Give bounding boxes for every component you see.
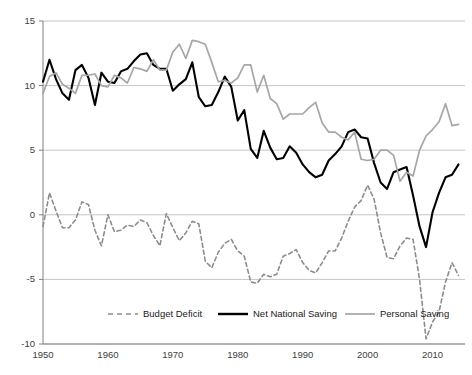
chart-container: 151050-5-10 1950196019701980199020002010… [0, 0, 472, 375]
data-series-group [43, 40, 459, 338]
legend-label-personal-saving: Personal Saving [380, 308, 449, 319]
x-tick-label: 2010 [413, 349, 453, 360]
y-tick-label: 15 [13, 15, 35, 26]
x-tick-label: 2000 [348, 349, 388, 360]
x-tick-label: 1980 [218, 349, 258, 360]
y-tick-label: 5 [13, 144, 35, 155]
x-tick-label: 1960 [88, 349, 128, 360]
gridlines [43, 21, 465, 344]
legend-label-budget-deficit: Budget Deficit [143, 308, 202, 319]
legend-label-net-national-saving: Net National Saving [253, 308, 337, 319]
y-tick-label: 10 [13, 80, 35, 91]
series-line-personal-saving [43, 40, 459, 181]
y-tick-label: 0 [13, 209, 35, 220]
x-tick-label: 1950 [23, 349, 63, 360]
x-tick-label: 1990 [283, 349, 323, 360]
y-tick-label: -10 [13, 338, 35, 349]
x-tick-label: 1970 [153, 349, 193, 360]
y-tick-label: -5 [13, 273, 35, 284]
